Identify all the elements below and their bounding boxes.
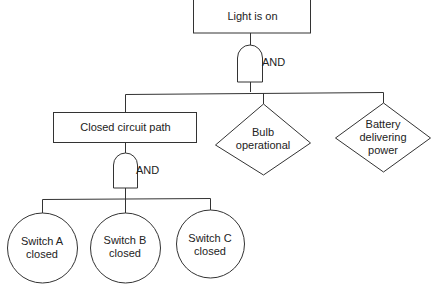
and-gate-sub-label: AND <box>136 164 166 177</box>
fault-tree-diagram: Light is on AND Closed circuit path Bulb… <box>0 0 431 287</box>
battery-label: Battery delivering power <box>343 118 423 157</box>
switch-a-label: Switch A closed <box>7 235 77 261</box>
bulb-label: Bulb operational <box>223 126 303 152</box>
switch-c-label: Switch C closed <box>175 232 245 258</box>
closed-circuit-label: Closed circuit path <box>54 121 197 134</box>
and-gate-sub-icon <box>114 153 138 188</box>
and-gate-top-label: AND <box>262 56 292 69</box>
switch-b-label: Switch B closed <box>90 234 160 260</box>
and-gate-top-icon <box>238 45 263 82</box>
top-event-label: Light is on <box>194 10 311 23</box>
